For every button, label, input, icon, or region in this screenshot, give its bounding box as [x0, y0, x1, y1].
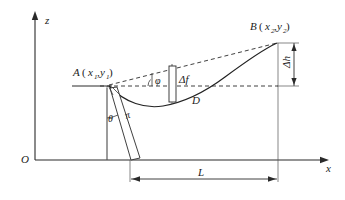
point-a-coord-y: y [99, 66, 105, 78]
point-b-paren-open: ( [259, 20, 263, 33]
diagram-canvas: z x O A ( x 1 , y 1 ) B ( x 2 , y 2 ) D [0, 0, 345, 200]
z-axis-label: z [44, 14, 50, 26]
point-a-name: A [72, 66, 80, 78]
point-a-coord-x: x [87, 66, 93, 78]
point-b-paren-close: ) [286, 20, 290, 33]
point-b-coord-y: y [276, 20, 282, 32]
span-arrow-left [132, 176, 140, 182]
x-axis-label: x [325, 162, 331, 174]
z-axis-arrowhead [32, 11, 38, 20]
delta-f-group [169, 64, 176, 104]
span-arrow-right [268, 176, 276, 182]
delta-f-marker-box [169, 66, 176, 102]
point-a-label-group: A ( x 1 , y 1 ) [72, 66, 113, 81]
point-b-label-group: B ( x 2 , y 2 ) [250, 20, 290, 35]
phi-angle-arc [148, 80, 151, 87]
point-d-label: D [191, 94, 200, 106]
delta-h-arrow-bottom [291, 78, 296, 85]
height-delta-h-label: Δh [280, 56, 292, 69]
span-length-label: L [197, 166, 204, 178]
figure-container: z x O A ( x 1 , y 1 ) B ( x 2 , y 2 ) D [0, 0, 345, 200]
insulator-string-bar [110, 87, 140, 160]
point-a-paren-close: ) [109, 66, 113, 79]
point-b-name: B [250, 20, 257, 32]
point-b-coord-x: x [264, 20, 270, 32]
origin-label: O [21, 153, 29, 165]
delta-h-arrow-top [291, 44, 296, 51]
chord-ab-dashed [109, 43, 277, 85]
point-a-paren-open: ( [82, 66, 86, 79]
angle-phi-label: φ [155, 75, 161, 86]
sag-delta-f-label: Δf [178, 73, 190, 85]
angle-theta-label: θ [108, 113, 113, 124]
